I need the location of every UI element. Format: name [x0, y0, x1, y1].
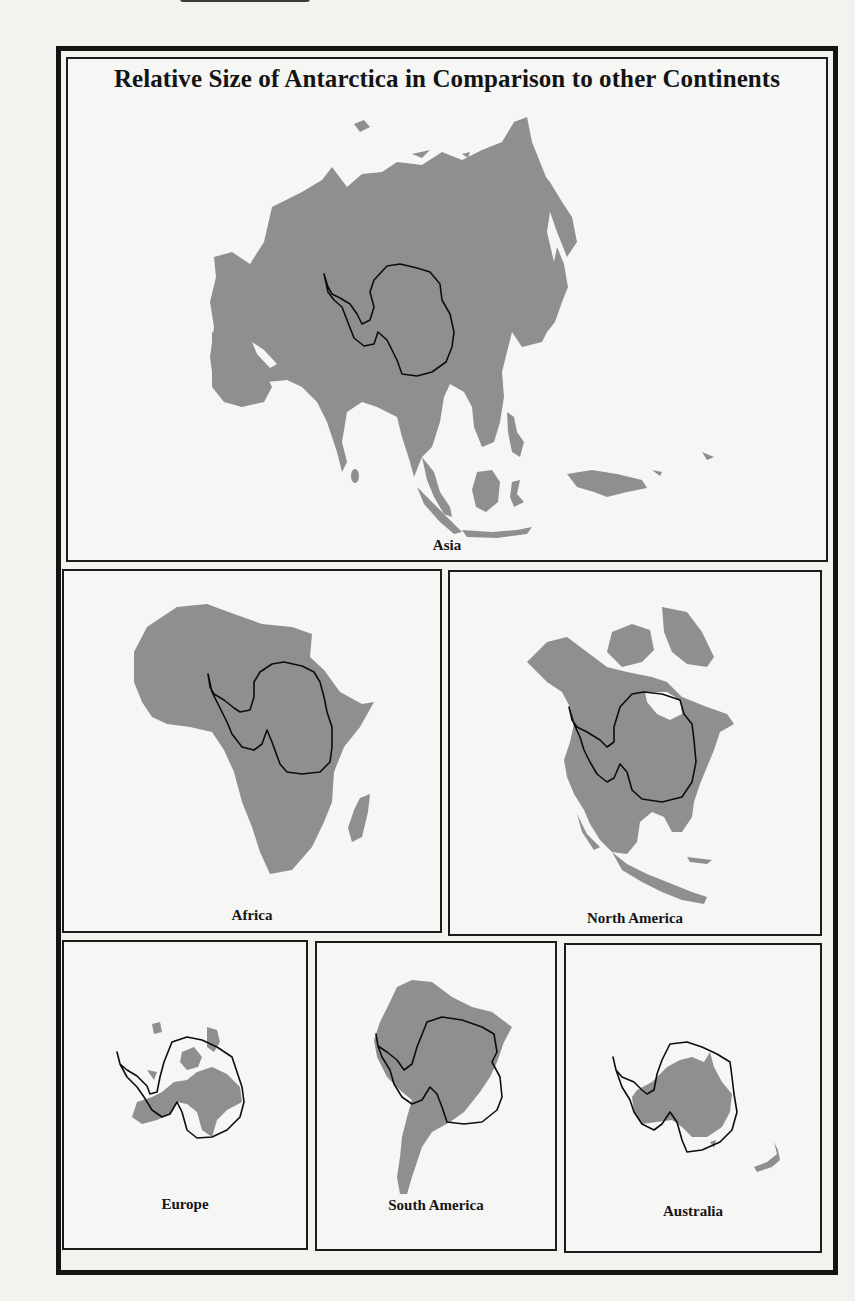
panel-north-america: North America [448, 570, 822, 936]
panel-asia: Relative Size of Antarctica in Compariso… [66, 57, 828, 562]
greenland-landmass [662, 607, 714, 667]
asia-landmass [210, 117, 577, 477]
panel-south-america: South America [315, 941, 557, 1251]
panel-africa: Africa [62, 569, 442, 933]
panel-label-north-america: North America [450, 910, 820, 927]
asia-map [68, 59, 828, 562]
panel-label-asia: Asia [68, 537, 826, 554]
north-america-landmass [527, 637, 734, 854]
panel-label-south-america: South America [317, 1197, 555, 1214]
new-zealand-landmass [754, 1142, 780, 1172]
africa-landmass [134, 604, 374, 874]
panel-label-europe: Europe [64, 1196, 306, 1213]
panel-europe: Europe [62, 940, 308, 1250]
north-america-map [450, 572, 822, 936]
cropped-caption-fragment [180, 0, 310, 2]
panel-australia: Australia [564, 943, 822, 1253]
panel-label-australia: Australia [566, 1203, 820, 1220]
panel-label-africa: Africa [64, 907, 440, 924]
africa-map [64, 571, 442, 933]
